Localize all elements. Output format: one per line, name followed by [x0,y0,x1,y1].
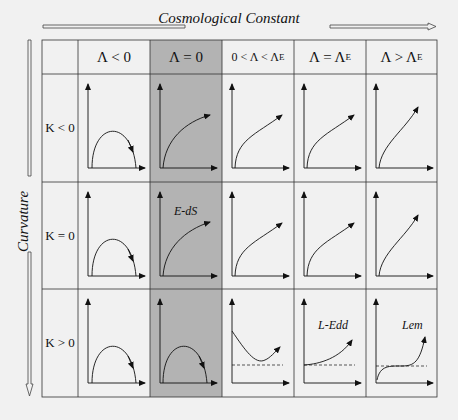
column-header-lambda-negative: Λ < 0 [78,40,150,74]
plot-k-neg-lambda-high [376,84,433,168]
plot-k-zero-lambda-neg [88,192,145,276]
column-label: 0 < Λ < Λ [232,50,279,65]
plot-k-pos-lambda-high [376,299,433,383]
plot-k-zero-lambda-low [232,192,289,276]
plot-k-zero-lambda-e [304,192,361,276]
column-subscript: E [417,52,423,62]
annotation-lemaitre: Lem [402,318,423,333]
plot-k-pos-lambda-low [232,299,289,383]
column-label: Λ = 0 [169,49,203,66]
column-label: Λ > Λ [381,49,418,66]
plot-k-pos-lambda-e [304,299,361,383]
column-label: Λ = Λ [309,49,346,66]
plot-k-pos-lambda-neg [88,299,145,383]
column-header-lambda-above-einstein: Λ > ΛE [366,40,437,74]
column-header-lambda-einstein: Λ = ΛE [294,40,366,74]
plot-k-neg-lambda-neg [88,84,145,168]
plot-k-neg-lambda-low [232,84,289,168]
horizontal-arrow-icon [43,23,436,30]
row-header-k-negative: K < 0 [42,74,78,182]
row-header-k-positive: K > 0 [42,289,78,397]
annotation-einstein-de-sitter: E-dS [174,204,197,219]
annotation-lemaitre-eddington: L-Edd [318,318,348,333]
row-header-k-zero: K = 0 [42,182,78,289]
column-subscript: E [279,52,285,62]
vertical-arrow-icon [26,40,33,396]
plot-k-neg-lambda-e [304,84,361,168]
column-header-lambda-below-einstein: 0 < Λ < ΛE [222,40,294,74]
column-subscript: E [346,52,352,62]
column-header-lambda-zero: Λ = 0 [150,40,222,74]
column-label: Λ < 0 [97,49,131,66]
plot-k-zero-lambda-high [376,192,433,276]
